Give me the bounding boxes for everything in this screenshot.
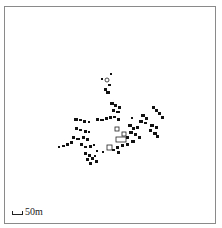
building-footprint: [134, 133, 137, 136]
building-footprint: [139, 120, 143, 123]
building-footprint: [116, 111, 120, 113]
building-footprint: [141, 114, 145, 117]
building-footprint: [96, 150, 98, 152]
building-footprint: [110, 73, 112, 75]
building-footprint: [88, 121, 90, 123]
building-footprint: [94, 155, 96, 157]
building-footprint: [100, 119, 104, 121]
building-footprint: [158, 112, 161, 115]
building-footprint: [116, 146, 119, 149]
building-footprint: [117, 151, 120, 154]
building-footprint: [155, 126, 158, 129]
building-outline: [107, 145, 112, 150]
building-footprint: [58, 146, 60, 148]
building-footprint: [138, 136, 141, 139]
building-outline: [122, 132, 126, 136]
building-footprint: [101, 78, 103, 80]
building-footprint: [96, 118, 99, 121]
building-footprint: [126, 143, 129, 146]
building-footprint: [82, 136, 85, 139]
building-footprint: [79, 119, 82, 121]
building-footprint: [66, 143, 69, 146]
building-footprint: [79, 129, 82, 131]
building-footprint: [121, 144, 124, 147]
building-footprint: [86, 158, 89, 161]
building-footprint: [132, 127, 135, 130]
building-footprint: [128, 124, 132, 127]
building-footprint: [95, 160, 98, 163]
building-footprint: [86, 138, 89, 141]
building-footprint: [84, 146, 87, 148]
building-footprint: [84, 130, 87, 133]
building-footprint: [145, 117, 148, 120]
building-footprint: [105, 117, 108, 120]
building-footprint: [88, 131, 90, 133]
building-footprint: [83, 120, 86, 123]
map-canvas[interactable]: [0, 0, 222, 228]
scale-bar-line: [12, 211, 23, 215]
building-footprint: [114, 104, 117, 107]
building-footprint: [88, 154, 91, 157]
building-footprint: [106, 91, 110, 94]
building-footprint: [131, 140, 135, 143]
building-footprint: [136, 126, 139, 129]
building-footprint: [118, 106, 121, 109]
building-footprint: [108, 84, 111, 86]
building-footprint: [155, 109, 158, 112]
building-footprint: [62, 145, 65, 147]
building-footprint: [76, 138, 80, 140]
building-footprint: [89, 145, 92, 148]
building-footprint: [70, 141, 73, 144]
building-footprint: [110, 102, 114, 105]
building-footprint: [129, 131, 133, 134]
building-footprint: [152, 106, 155, 109]
building-footprint: [91, 157, 94, 160]
building-footprint: [156, 135, 159, 138]
building-footprint: [75, 127, 78, 130]
building-footprint: [126, 136, 129, 139]
building-footprint: [74, 118, 78, 121]
building-footprint: [149, 129, 152, 132]
building-footprint: [112, 149, 115, 151]
building-footprint: [117, 118, 120, 121]
building-footprint: [80, 143, 83, 146]
building-footprint: [131, 117, 133, 119]
building-footprint: [150, 124, 154, 127]
building-footprint: [161, 116, 164, 119]
building-footprint: [113, 116, 116, 118]
building-footprint: [84, 152, 87, 155]
building-footprint: [109, 116, 112, 119]
building-outline: [115, 127, 119, 131]
scale-bar: 50m: [12, 207, 43, 217]
building-footprint: [102, 151, 104, 153]
scale-bar-label: 50m: [25, 207, 43, 217]
building-footprint: [89, 162, 92, 165]
building-footprint: [72, 136, 75, 139]
building-footprint: [144, 122, 147, 124]
circle-marker-icon: [105, 78, 109, 82]
building-footprint: [112, 109, 115, 112]
building-outline: [116, 137, 126, 142]
building-footprint: [93, 144, 95, 146]
building-footprint: [153, 132, 157, 135]
building-footprint: [104, 88, 107, 91]
